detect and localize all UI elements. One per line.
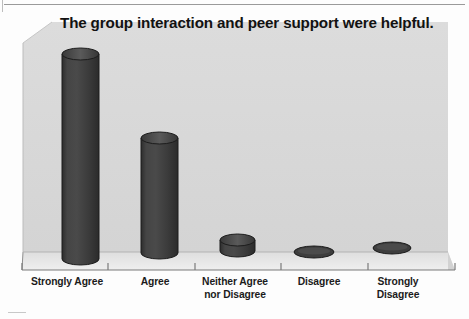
axis-label-line: Strongly xyxy=(355,276,441,289)
axis-label-line: Disagree xyxy=(277,276,361,289)
axis-label-neither-agree-nor-disagree: Neither Agree nor Disagree xyxy=(185,276,285,301)
chart-title: The group interaction and peer support w… xyxy=(60,14,466,31)
axis-label-line: Neither Agree xyxy=(185,276,285,289)
bar-neither-agree-nor-disagree[interactable] xyxy=(220,234,255,257)
axis-label-strongly-disagree: Strongly Disagree xyxy=(355,276,441,301)
chart-figure: The group interaction and peer support w… xyxy=(0,0,469,319)
bar-chart-plot xyxy=(0,0,469,319)
axis-label-line: nor Disagree xyxy=(185,289,285,302)
axis-label-line: Strongly Agree xyxy=(12,276,122,289)
axis-label-strongly-agree: Strongly Agree xyxy=(12,276,122,289)
axis-label-disagree: Disagree xyxy=(277,276,361,289)
bar-strongly-agree[interactable] xyxy=(62,48,99,265)
axis-label-agree: Agree xyxy=(118,276,192,289)
bar-disagree[interactable] xyxy=(294,246,334,258)
axis-label-line: Agree xyxy=(118,276,192,289)
bar-agree[interactable] xyxy=(141,132,178,259)
axis-label-line: Disagree xyxy=(355,289,441,302)
bar-strongly-disagree[interactable] xyxy=(373,242,411,254)
chart-left-edge xyxy=(22,43,23,270)
